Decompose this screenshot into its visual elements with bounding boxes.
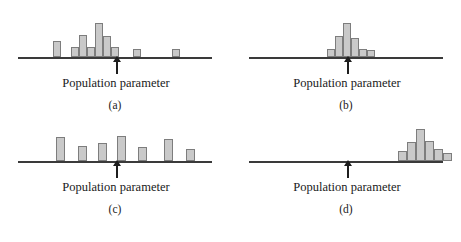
panel-d-bar — [398, 151, 407, 161]
panel-a-bar — [79, 35, 87, 57]
panel-b-parameter-label: Population parameter — [232, 76, 461, 90]
panel-b-bar — [359, 49, 367, 57]
panel-d-bar — [443, 153, 452, 161]
panel-a-bar — [87, 47, 95, 57]
panel-c-bar — [186, 149, 195, 161]
panel-c-bar — [98, 143, 107, 161]
panel-c-bar — [56, 137, 65, 161]
panel-d-parameter-arrow-shaft-icon — [347, 166, 349, 178]
panel-d-bar — [425, 141, 434, 161]
panel-d-caption: (d) — [231, 203, 461, 215]
panel-c-parameter-label: Population parameter — [1, 180, 231, 194]
panel-d-bar — [407, 142, 416, 161]
panel-d-bar — [434, 149, 443, 161]
panel-b-caption: (b) — [231, 99, 461, 111]
panel-b-bar — [343, 23, 351, 57]
panel-a-parameter-label: Population parameter — [1, 76, 231, 90]
panel-c: Population parameter (c) — [0, 121, 230, 242]
panel-a-caption: (a) — [0, 99, 230, 111]
panel-a-bar — [95, 23, 103, 57]
panel-d-parameter-label: Population parameter — [232, 180, 461, 194]
panel-b: Population parameter (b) — [231, 0, 461, 121]
panel-c-bar — [117, 136, 126, 161]
panel-a-bar — [133, 49, 141, 57]
panel-a-bar — [172, 49, 180, 57]
panel-c-bar — [138, 147, 147, 161]
panel-b-bar — [351, 38, 359, 57]
panel-b-bar — [367, 50, 375, 57]
panel-a-parameter-arrow-shaft-icon — [116, 62, 118, 74]
panel-b-parameter-arrow-shaft-icon — [347, 62, 349, 74]
panel-d: Population parameter (d) — [231, 121, 461, 242]
panel-c-caption: (c) — [0, 203, 230, 215]
panel-c-bar — [78, 146, 87, 161]
panel-a-bar — [53, 41, 61, 57]
panel-c-bar — [164, 139, 173, 161]
panel-a-bar — [103, 36, 111, 57]
panel-a-bar — [71, 47, 79, 57]
panel-c-parameter-arrow-shaft-icon — [116, 166, 118, 178]
sampling-distribution-figure: Population parameter (a) Population para… — [0, 0, 461, 242]
panel-b-bar — [327, 49, 335, 57]
panel-a: Population parameter (a) — [0, 0, 230, 121]
panel-d-bar — [416, 129, 425, 161]
panel-b-bar — [335, 36, 343, 57]
